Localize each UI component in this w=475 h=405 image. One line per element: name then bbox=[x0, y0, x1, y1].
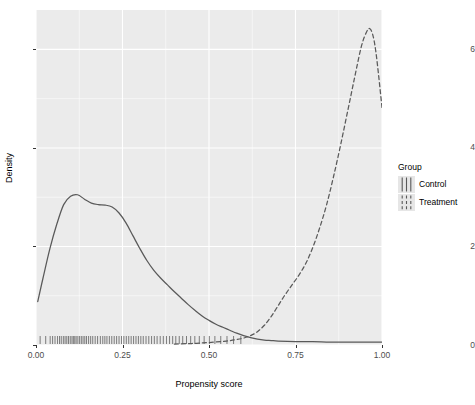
y-axis-tick-label: 2 bbox=[457, 242, 475, 251]
legend-key-control-icon bbox=[398, 176, 415, 193]
density-curve-control bbox=[38, 195, 382, 343]
y-axis-title: Density bbox=[2, 0, 16, 335]
x-axis-tick-mark bbox=[36, 345, 37, 348]
x-axis-tick-label: 0.50 bbox=[201, 351, 218, 360]
legend-items: ControlTreatment bbox=[398, 176, 473, 211]
legend-item-treatment[interactable]: Treatment bbox=[398, 194, 473, 211]
x-axis-tick-label: 0.00 bbox=[28, 351, 45, 360]
x-axis-tick-mark bbox=[123, 345, 124, 348]
x-axis-tick-label: 0.25 bbox=[114, 351, 131, 360]
rug-plot bbox=[40, 336, 382, 345]
legend-item-control[interactable]: Control bbox=[398, 176, 473, 193]
x-axis-tick-label: 0.75 bbox=[287, 351, 304, 360]
plot-canvas bbox=[36, 10, 382, 345]
x-axis-tick-mark bbox=[209, 345, 210, 348]
y-axis-tick-label: 0 bbox=[457, 341, 475, 350]
y-axis-tick-label: 6 bbox=[457, 45, 475, 54]
x-axis-tick-mark bbox=[382, 345, 383, 348]
y-axis-title-label: Density bbox=[4, 152, 14, 182]
density-curve-treatment bbox=[174, 28, 382, 344]
x-axis-tick-mark bbox=[296, 345, 297, 348]
legend-item-label: Treatment bbox=[419, 198, 457, 207]
plot-panel bbox=[36, 10, 382, 345]
legend-key-treatment-icon bbox=[398, 194, 415, 211]
legend-title: Group bbox=[398, 163, 473, 172]
legend-item-label: Control bbox=[419, 180, 446, 189]
gridlines-major bbox=[36, 10, 382, 345]
x-axis-tick-label: 1.00 bbox=[374, 351, 391, 360]
y-axis-tick-label: 4 bbox=[457, 143, 475, 152]
legend: Group ControlTreatment bbox=[398, 163, 473, 212]
density-plot-figure: Density 0246 0.000.250.500.751.00 Propen… bbox=[0, 0, 475, 405]
x-axis-title: Propensity score bbox=[36, 379, 382, 389]
